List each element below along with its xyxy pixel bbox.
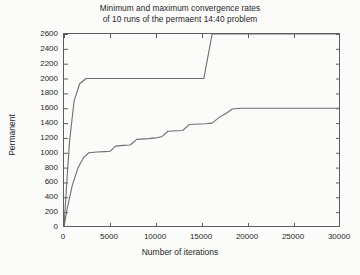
plot-area: [63, 33, 340, 227]
y-tick-label: 1800: [40, 88, 58, 97]
y-tick-label: 2000: [40, 73, 58, 82]
x-tick-label: 25000: [282, 232, 304, 241]
x-tick-label: 15000: [190, 232, 212, 241]
x-axis-title: Number of iterations: [0, 247, 360, 257]
y-tick-label: 400: [45, 192, 58, 201]
series-line-minimum: [64, 108, 340, 227]
series-line-maximum: [64, 34, 340, 227]
y-tick-label: 2200: [40, 58, 58, 67]
x-axis-tick-labels: 050001000015000200002500030000: [0, 232, 360, 246]
plot-svg: [64, 34, 340, 227]
y-tick-label: 0: [54, 222, 58, 231]
x-tick-label: 20000: [236, 232, 258, 241]
y-tick-label: 1000: [40, 147, 58, 156]
chart-screenshot: Minimum and maximum convergence rates of…: [0, 0, 360, 275]
y-tick-label: 1600: [40, 103, 58, 112]
x-tick-label: 10000: [144, 232, 166, 241]
y-tick-label: 2600: [40, 29, 58, 38]
y-tick-label: 800: [45, 162, 58, 171]
y-tick-label: 1400: [40, 118, 58, 127]
x-tick-label: 0: [61, 232, 65, 241]
x-tick-label: 30000: [328, 232, 350, 241]
y-tick-label: 600: [45, 177, 58, 186]
y-tick-label: 1200: [40, 132, 58, 141]
x-tick-label: 5000: [100, 232, 118, 241]
y-axis-title: Permanent: [7, 95, 17, 175]
y-tick-label: 2400: [40, 43, 58, 52]
y-tick-label: 200: [45, 207, 58, 216]
